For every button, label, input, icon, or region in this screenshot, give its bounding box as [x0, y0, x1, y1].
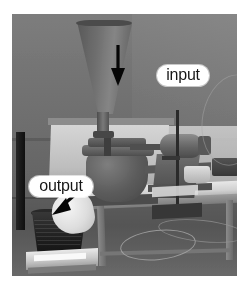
output-callout-label: output	[29, 176, 93, 197]
input-callout-label: input	[157, 65, 209, 86]
figure-container: input output	[0, 0, 247, 289]
photograph: input output	[12, 14, 237, 276]
output-arrow-icon	[12, 14, 237, 276]
